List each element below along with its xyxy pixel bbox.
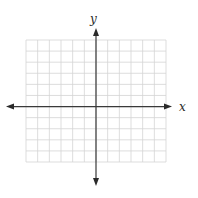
y-axis-label: y	[89, 12, 97, 26]
y-axis-down-arrow-icon	[93, 178, 99, 186]
y-axis-up-arrow-icon	[93, 28, 99, 36]
x-axis-right-arrow-icon	[164, 104, 172, 110]
x-axis-left-arrow-icon	[6, 104, 14, 110]
x-axis-label: x	[179, 100, 186, 114]
coordinate-plane: x y	[0, 0, 198, 198]
